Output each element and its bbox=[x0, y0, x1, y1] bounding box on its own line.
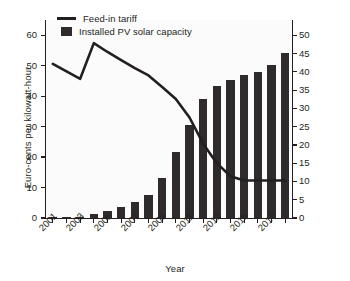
y-axis-left-tick-mark bbox=[41, 96, 45, 97]
y-axis-left-tick-mark bbox=[41, 35, 45, 36]
y-axis-right-tick-label: 50 bbox=[299, 30, 329, 40]
line-series-feed-in-tariff bbox=[46, 20, 292, 218]
y-axis-left-tick-mark bbox=[41, 126, 45, 127]
legend-item-label: Installed PV solar capacity bbox=[79, 26, 192, 37]
y-axis-right-tick-mark bbox=[293, 144, 297, 145]
x-axis-tick-mark bbox=[285, 219, 286, 223]
x-axis-tick-label: 2001 bbox=[37, 211, 59, 233]
y-axis-right-tick-label: 15 bbox=[299, 158, 329, 168]
y-axis-right-tick-label: 45 bbox=[299, 49, 329, 59]
y-axis-right-tick-mark bbox=[293, 199, 297, 200]
y-axis-right-tick-label: 20 bbox=[299, 140, 329, 150]
axis-spine-right bbox=[292, 20, 293, 218]
y-axis-left-tick-label: 20 bbox=[7, 152, 37, 162]
y-axis-right-tick-mark bbox=[293, 108, 297, 109]
y-axis-right-tick-mark bbox=[293, 53, 297, 54]
y-axis-right-tick-label: 40 bbox=[299, 67, 329, 77]
legend-item-label: Feed-in tariff bbox=[83, 13, 137, 24]
chart-figure: Euro-cents per kilowatt-hour Gigawatts Y… bbox=[0, 0, 350, 281]
y-axis-right-tick-label: 5 bbox=[299, 195, 329, 205]
legend-item-feed-in-tariff: Feed-in tariff bbox=[57, 12, 192, 25]
y-axis-right-tick-label: 10 bbox=[299, 176, 329, 186]
y-axis-right-tick-label: 0 bbox=[299, 213, 329, 223]
y-axis-left-tick-mark bbox=[41, 187, 45, 188]
plot-area: 0102030405060 05101520253035404550 20012… bbox=[46, 20, 292, 218]
y-axis-right-tick-mark bbox=[293, 35, 297, 36]
y-axis-left-tick-label: 30 bbox=[7, 122, 37, 132]
x-axis-title: Year bbox=[0, 263, 350, 274]
y-axis-right-tick-mark bbox=[293, 217, 297, 218]
y-axis-right-tick-mark bbox=[293, 71, 297, 72]
y-axis-right-tick-label: 30 bbox=[299, 103, 329, 113]
y-axis-right-tick-mark bbox=[293, 181, 297, 182]
y-axis-right-tick-mark bbox=[293, 126, 297, 127]
y-axis-left-tick-label: 10 bbox=[7, 183, 37, 193]
y-axis-right-tick-label: 25 bbox=[299, 122, 329, 132]
y-axis-left-tick-label: 50 bbox=[7, 61, 37, 71]
y-axis-left-tick-label: 0 bbox=[7, 213, 37, 223]
y-axis-left-tick-label: 40 bbox=[7, 91, 37, 101]
bar-swatch-icon bbox=[61, 27, 72, 36]
chart-legend: Feed-in tariff Installed PV solar capaci… bbox=[57, 12, 192, 38]
line-swatch-icon bbox=[57, 17, 76, 20]
y-axis-left-tick-label: 60 bbox=[7, 30, 37, 40]
y-axis-left-tick-mark bbox=[41, 65, 45, 66]
y-axis-left-tick-mark bbox=[41, 156, 45, 157]
y-axis-right-tick-mark bbox=[293, 90, 297, 91]
legend-item-installed-pv-solar-capacity: Installed PV solar capacity bbox=[57, 25, 192, 38]
y-axis-right-tick-mark bbox=[293, 163, 297, 164]
y-axis-right-tick-label: 35 bbox=[299, 85, 329, 95]
